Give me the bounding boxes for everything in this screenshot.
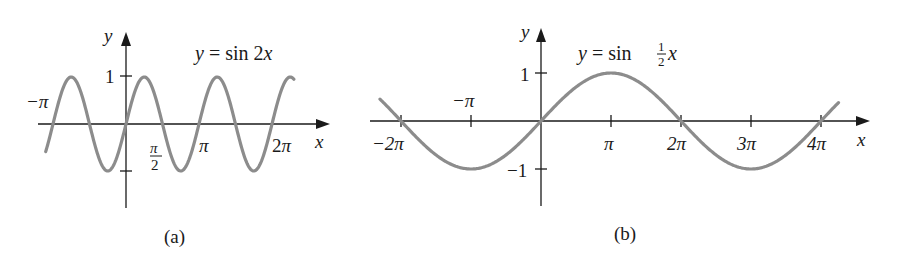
- caption-b: (b): [614, 223, 636, 245]
- y-axis-label: y: [102, 25, 113, 46]
- x-tick-label-neg2pi: −2π: [372, 133, 404, 154]
- x-tick-label-negpi: −π: [452, 90, 475, 111]
- x-tick-label-2pi: 2π: [272, 135, 292, 156]
- x-tick-label-neg-pi: −π: [26, 91, 49, 112]
- y-tick-label-neg1: −1: [507, 160, 527, 181]
- y-tick-label-1: 1: [520, 64, 530, 85]
- x-axis-label: x: [314, 131, 324, 152]
- y-axis-arrow-icon: [536, 28, 546, 42]
- panel-a: y x 1 −π π 2 π 2π y = sin 2x (a): [26, 25, 330, 248]
- x-tick-label-pi: π: [199, 135, 209, 156]
- equation-label: y = sin 2x: [193, 42, 273, 65]
- y-axis-arrow-icon: [121, 32, 131, 46]
- equation-frac-num: 1: [658, 39, 665, 54]
- x-tick-label-4pi: 4π: [807, 133, 827, 154]
- x-axis-label: x: [856, 129, 866, 150]
- equation-label: y = sin: [576, 42, 632, 65]
- x-tick-label-pi-over-2-num: π: [150, 140, 158, 156]
- x-axis-arrow-icon: [856, 116, 870, 126]
- panel-b: y x 1 −1 −2π −π π 2π 3π 4π y = sin 1 2 x…: [370, 21, 870, 245]
- y-axis-label: y: [519, 21, 530, 42]
- x-tick-label-2pi: 2π: [667, 133, 687, 154]
- x-tick-label-pi: π: [604, 133, 614, 154]
- equation-frac-den: 2: [658, 54, 665, 69]
- equation-x: x: [667, 42, 677, 64]
- y-tick-label-1: 1: [105, 66, 115, 87]
- x-axis-arrow-icon: [316, 119, 330, 129]
- figure: y x 1 −π π 2 π 2π y = sin 2x (a) y x 1 −…: [0, 0, 919, 261]
- x-tick-label-pi-over-2-den: 2: [151, 157, 159, 173]
- caption-a: (a): [164, 226, 185, 248]
- x-tick-label-3pi: 3π: [736, 133, 757, 154]
